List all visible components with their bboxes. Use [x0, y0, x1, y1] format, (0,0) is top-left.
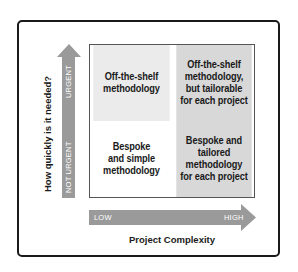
quadrant-text-line: for each project: [180, 171, 248, 183]
quadrant-text-line: methodology,: [180, 71, 248, 83]
y-axis-high-label: URGENT: [64, 65, 73, 98]
x-axis-high-label: HIGH: [224, 213, 244, 222]
quadrant-text-line: but tailorable: [180, 83, 248, 95]
x-axis-low-label: LOW: [94, 213, 112, 222]
quadrant-text-line: methodology: [103, 165, 160, 177]
quadrant-text-line: Off-the-shelf: [103, 71, 160, 83]
quadrant-top-right: Off-the-shelf methodology, but tailorabl…: [176, 45, 251, 121]
x-axis-title: Project Complexity: [89, 234, 255, 245]
y-axis-title: How quickly is it needed?: [42, 76, 53, 192]
quadrant-top-left: Off-the-shelf methodology: [93, 45, 169, 121]
quadrant-text-line: Bespoke and: [180, 135, 248, 147]
quadrant-text-line: methodology: [103, 83, 160, 95]
quadrant-bottom-right: Bespoke and tailored methodology for eac…: [176, 121, 251, 197]
quadrant-text-line: Off-the-shelf: [180, 59, 248, 71]
quadrant-matrix: Off-the-shelf methodology Off-the-shelf …: [89, 44, 255, 198]
y-axis-low-label: NOT URGENT: [64, 142, 73, 193]
quadrant-text-line: Bespoke: [103, 141, 160, 153]
quadrant-text-line: and simple: [103, 153, 160, 165]
quadrant-text-line: for each project: [180, 95, 248, 107]
quadrant-text-line: tailored: [180, 147, 248, 159]
quadrant-text-line: methodology: [180, 159, 248, 171]
quadrant-bottom-left: Bespoke and simple methodology: [93, 121, 169, 197]
